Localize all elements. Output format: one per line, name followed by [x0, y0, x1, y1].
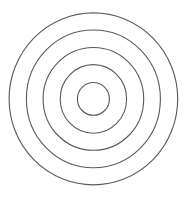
ring-1 [9, 13, 178, 185]
rings-graphic [0, 0, 187, 202]
concentric-circles-diagram [0, 0, 187, 202]
ring-3 [43, 48, 144, 151]
ring-4 [60, 65, 126, 134]
ring-5 [77, 83, 109, 116]
ring-2 [26, 30, 160, 168]
